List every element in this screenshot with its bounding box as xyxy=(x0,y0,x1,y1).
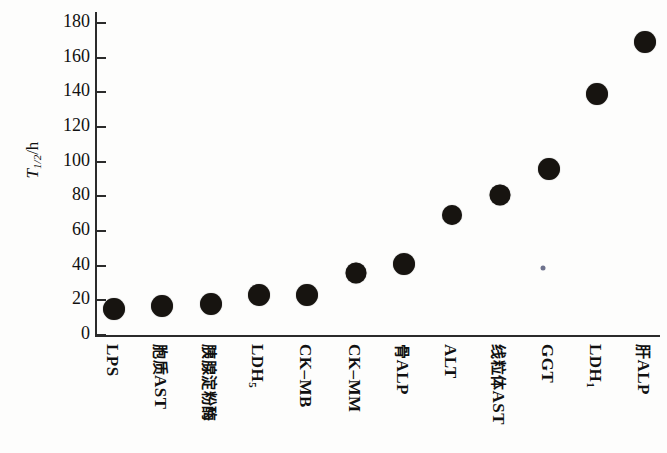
y-axis-label-unit: /h xyxy=(23,142,42,155)
y-axis-label: T1/2/h xyxy=(23,105,43,215)
y-axis-tick: 80 xyxy=(97,195,106,197)
data-point xyxy=(393,253,415,275)
y-axis-tick: 0 xyxy=(97,334,106,336)
scan-speck-artifact xyxy=(541,266,546,271)
y-axis-label-subscript: 1/2 xyxy=(31,155,43,169)
x-axis-category-label: ALT xyxy=(442,344,459,379)
x-axis-category-label: LDH1 xyxy=(582,344,604,388)
x-axis-category-label: 线粒体AST xyxy=(489,344,507,425)
y-axis-tick-label: 160 xyxy=(44,46,90,66)
y-axis-tick: 100 xyxy=(97,161,106,163)
y-axis-tick: 160 xyxy=(97,57,106,59)
x-axis-category-label: GGT xyxy=(539,344,556,383)
x-axis-line xyxy=(95,335,660,337)
y-axis-tick-label: 100 xyxy=(44,150,90,170)
y-axis-tick-label: 80 xyxy=(44,184,90,204)
x-axis-category-label: CK–MB xyxy=(297,344,314,408)
x-axis-category-label: 肝ALP xyxy=(634,344,652,395)
x-axis-category-label: LPS xyxy=(104,344,121,377)
data-point xyxy=(490,184,511,205)
y-axis-tick-label: 60 xyxy=(44,219,90,239)
x-axis-category-label: CK–MM xyxy=(346,344,363,413)
x-axis-category-label: 骨ALP xyxy=(393,344,411,395)
plot-area: 020406080100120140160180 xyxy=(95,12,660,337)
y-axis-tick: 140 xyxy=(97,91,106,93)
x-axis-category-label: 胰腺淀粉酶 xyxy=(200,344,218,422)
data-point xyxy=(442,205,462,225)
y-axis-tick: 60 xyxy=(97,230,106,232)
data-point xyxy=(151,295,173,317)
y-axis-tick-label: 140 xyxy=(44,80,90,100)
data-point xyxy=(103,298,125,320)
x-axis-category-label: LDH5 xyxy=(244,344,266,388)
data-point xyxy=(634,31,656,53)
y-axis-tick-label: 40 xyxy=(44,254,90,274)
data-point xyxy=(248,284,270,306)
data-point xyxy=(586,83,608,105)
y-axis-tick: 40 xyxy=(97,265,106,267)
y-axis-tick-label: 180 xyxy=(44,11,90,31)
data-point xyxy=(200,293,222,315)
x-axis-category-label: 胞质AST xyxy=(151,344,169,410)
y-axis-line xyxy=(95,12,97,337)
data-point xyxy=(345,262,366,283)
y-axis-tick-label: 0 xyxy=(44,323,90,343)
y-axis-tick: 120 xyxy=(97,126,106,128)
data-point xyxy=(538,158,560,180)
y-axis-tick-label: 20 xyxy=(44,288,90,308)
chart-figure: T1/2/h 020406080100120140160180 LPS胞质AST… xyxy=(0,0,667,453)
y-axis-tick-label: 120 xyxy=(44,115,90,135)
data-point xyxy=(296,284,318,306)
y-axis-tick: 180 xyxy=(97,22,106,24)
y-axis-label-symbol: T xyxy=(23,169,42,178)
